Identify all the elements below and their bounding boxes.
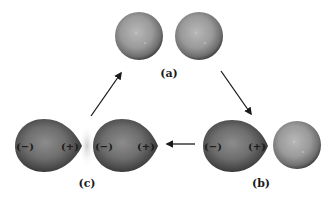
atom-sphere bbox=[273, 121, 321, 169]
panel-label-b: (b) bbox=[252, 177, 270, 190]
panel-label-a: (a) bbox=[160, 67, 178, 80]
atom-sphere bbox=[175, 12, 223, 60]
charge-negative: (−) bbox=[95, 141, 113, 152]
charge-negative: (−) bbox=[16, 141, 34, 152]
charge-positive: (+) bbox=[61, 141, 79, 152]
atom-sphere bbox=[115, 12, 163, 60]
charge-negative: (−) bbox=[204, 141, 222, 152]
charge-positive: (+) bbox=[137, 141, 155, 152]
dispersion-force-diagram: (−) (+) (−) (+) (−) (+) (a) (b) (c) bbox=[0, 0, 336, 198]
charge-positive: (+) bbox=[248, 141, 266, 152]
diagram-canvas bbox=[0, 0, 336, 198]
panel-a bbox=[115, 12, 223, 60]
panel-label-c: (c) bbox=[78, 177, 95, 190]
arrow-c-to-a bbox=[91, 73, 121, 116]
arrow-a-to-b bbox=[221, 71, 251, 114]
